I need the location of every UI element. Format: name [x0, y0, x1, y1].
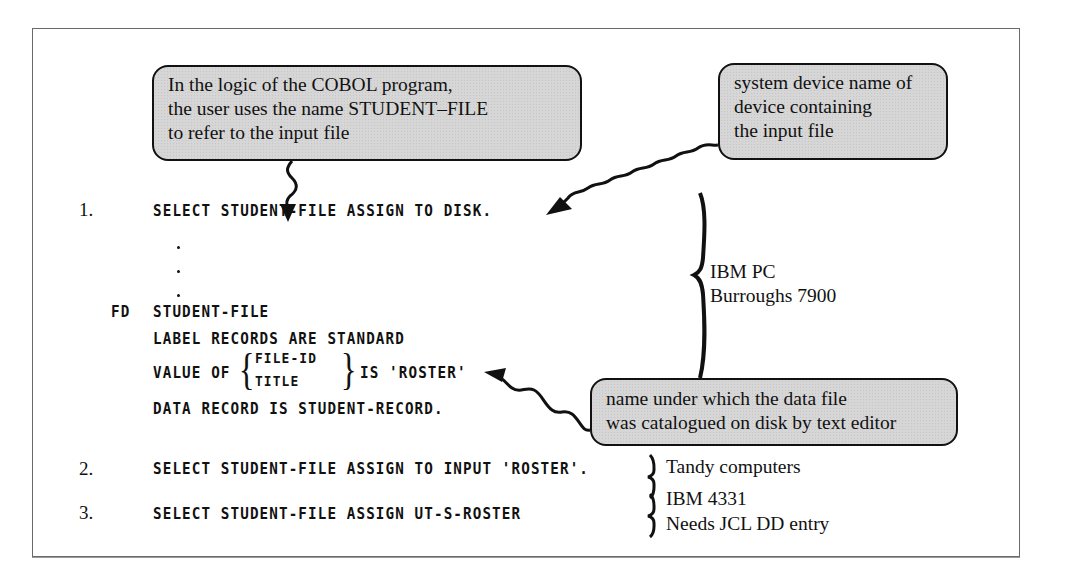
connector-overlay — [0, 0, 1065, 581]
arrowhead-icon — [280, 204, 296, 222]
wavy-arrow-catalog-name — [496, 376, 590, 430]
brace-example-3 — [648, 494, 654, 537]
brace-example-1 — [694, 193, 705, 378]
brace-example-2 — [648, 455, 654, 498]
wavy-arrow-device-name — [560, 145, 718, 206]
wavy-arrow-logical-name — [287, 161, 297, 208]
